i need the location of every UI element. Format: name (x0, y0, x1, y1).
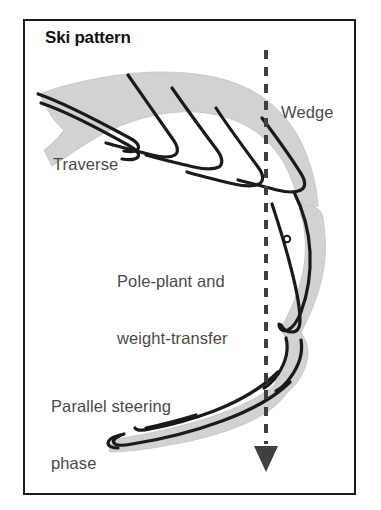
label-wedge: Wedge (281, 103, 333, 122)
fall-line-arrowhead (254, 446, 278, 472)
label-parallel-line2: phase (51, 454, 171, 473)
label-parallel-line1: Parallel steering (51, 397, 171, 416)
page-title: Ski pattern (45, 28, 131, 48)
pole-plant-circle (284, 236, 290, 242)
ski-pattern-figure: Ski pattern Wedge Traverse Pole-plant an… (0, 0, 381, 510)
label-pole-plant-line2: weight-transfer (117, 329, 228, 348)
label-traverse: Traverse (53, 155, 118, 174)
label-pole-plant-line1: Pole-plant and (117, 272, 228, 291)
label-parallel-steering: Parallel steering phase (51, 359, 171, 510)
swath-right-corridor (280, 204, 325, 338)
